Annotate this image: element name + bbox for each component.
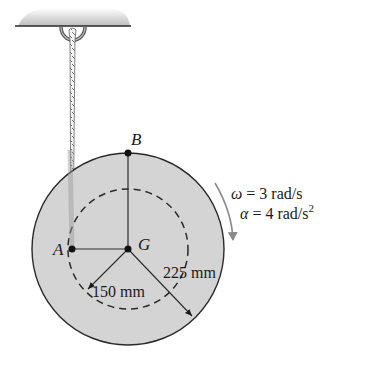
label-G: G [138, 235, 150, 254]
label-A: A [52, 240, 64, 259]
label-inner-radius: 150 mm [92, 283, 145, 300]
point-A [69, 246, 76, 253]
label-B: B [131, 130, 142, 149]
omega-label: ω = 3 rad/s [231, 185, 302, 202]
label-outer-radius: 225 mm [163, 264, 216, 281]
point-G [125, 246, 132, 253]
ceiling-shading [18, 8, 130, 26]
spool-diagram: B A G 150 mm 225 mm ω = 3 rad/s α = 4 ra… [0, 0, 370, 370]
alpha-label: α = 4 rad/s2 [240, 202, 314, 222]
point-B [125, 150, 132, 157]
